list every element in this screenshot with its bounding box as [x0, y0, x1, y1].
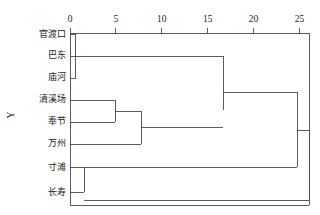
- leaf-label-miaohe: 庙河: [48, 71, 66, 82]
- merge-node-m8-root: [84, 130, 309, 200]
- xtick-label-2: 10: [157, 14, 167, 24]
- leaf-label-guandukou: 官渡口: [39, 28, 66, 39]
- leaf-label-wanzhou: 万州: [48, 138, 66, 148]
- y-axis-title: Y: [6, 111, 16, 118]
- merge-node-m6: [70, 167, 84, 192]
- merge-node-m7: [84, 92, 297, 167]
- xtick-label-3: 15: [203, 14, 213, 24]
- xtick-label-5: 25: [295, 14, 305, 24]
- dendrogram-plot: 0 5 10 15 20 25 官渡口 巴东 庙河 清溪场 奉节 万州 寸滩 长…: [0, 0, 320, 215]
- leaf-label-fengjie: 奉节: [48, 115, 66, 126]
- merge-node-m4: [70, 111, 141, 144]
- xtick-label-0: 0: [68, 14, 73, 24]
- merge-node-m3: [70, 100, 115, 122]
- xtick-label-1: 5: [114, 14, 119, 24]
- leaf-label-badong: 巴东: [48, 49, 66, 60]
- merge-node-m2: [70, 56, 223, 110]
- leaf-label-changshou: 长寿: [48, 186, 66, 197]
- leaf-label-qingxichang: 清溪场: [39, 93, 66, 104]
- xtick-label-4: 20: [249, 14, 259, 24]
- dendrogram-screenshot: 0 5 10 15 20 25 官渡口 巴东 庙河 清溪场 奉节 万州 寸滩 长…: [0, 0, 320, 215]
- leaf-label-cuntan: 寸滩: [48, 161, 66, 172]
- axis-tick-marks: [70, 28, 300, 33]
